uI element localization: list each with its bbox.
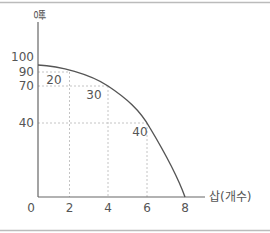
annotation-30: 30 — [86, 88, 101, 102]
annotation-20: 20 — [46, 73, 61, 87]
x-tick-8: 8 — [181, 201, 189, 215]
chart-canvas: 빵 100 90 70 40 0 2 4 6 8 삽(개수) 20 30 40 — [0, 0, 270, 233]
y-tick-70: 70 — [19, 79, 34, 93]
annotation-40: 40 — [132, 125, 147, 139]
y-tick-90: 90 — [19, 65, 34, 79]
x-tick-0: 0 — [27, 201, 35, 215]
y-tick-100: 100 — [11, 50, 34, 64]
y-axis-label: 빵 — [32, 9, 46, 20]
x-axis-label: 삽(개수) — [209, 190, 251, 204]
x-tick-4: 4 — [104, 201, 112, 215]
x-tick-2: 2 — [66, 201, 74, 215]
x-tick-6: 6 — [143, 201, 151, 215]
y-tick-40: 40 — [19, 116, 34, 130]
